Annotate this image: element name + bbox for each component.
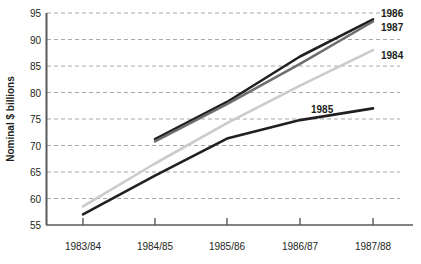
x-tick-label-5: 1987/88: [355, 241, 392, 252]
x-tick-label-4: 1986/87: [282, 241, 319, 252]
y-tick-label-80: 80: [30, 88, 42, 99]
y-tick-label-60: 60: [30, 194, 42, 205]
y-tick-label-55: 55: [30, 220, 42, 231]
chart-canvas: 95 90 85 80 75 70 65 60 55 1983/84 1984/…: [0, 0, 421, 264]
y-tick-label-70: 70: [30, 141, 42, 152]
y-tick-label-65: 65: [30, 167, 42, 178]
y-tick-label-95: 95: [30, 8, 42, 19]
series-labels: 1986 1987 1984 1985: [311, 8, 404, 115]
y-tick-label-85: 85: [30, 61, 42, 72]
y-tick-label-90: 90: [30, 35, 42, 46]
data-series-group: [83, 19, 373, 214]
series-label-1987: 1987: [381, 22, 404, 33]
x-axis-tick-labels: 1983/84 1984/85 1985/86 1986/87 1987/88: [65, 241, 392, 252]
y-axis-title: Nominal $ billions: [5, 76, 16, 162]
x-tick-label-3: 1985/86: [209, 241, 246, 252]
series-label-1986: 1986: [381, 8, 404, 19]
x-axis-ticks: [83, 218, 373, 225]
y-tick-label-75: 75: [30, 114, 42, 125]
series-line-1984: [83, 50, 373, 206]
x-tick-label-2: 1984/85: [137, 241, 174, 252]
series-line-1986: [155, 19, 373, 139]
y-axis-tick-labels: 95 90 85 80 75 70 65 60 55: [30, 8, 42, 231]
line-chart: 95 90 85 80 75 70 65 60 55 1983/84 1984/…: [0, 0, 421, 264]
x-tick-label-1: 1983/84: [65, 241, 102, 252]
series-label-1985: 1985: [311, 104, 334, 115]
series-label-1984: 1984: [381, 50, 404, 61]
